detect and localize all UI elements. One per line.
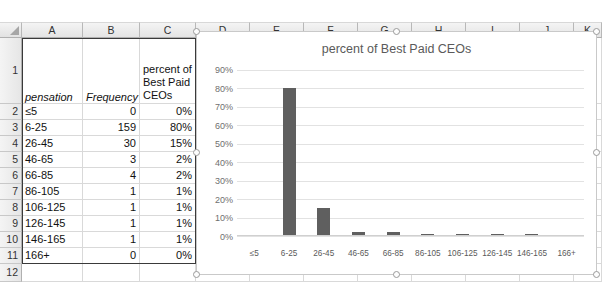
cell-a1-compensation-header[interactable]: pensation: [22, 38, 83, 104]
y-tick-label-10: 10%: [215, 213, 233, 223]
handle-bottom-right[interactable]: [593, 271, 600, 278]
row-header-8[interactable]: 8: [0, 200, 22, 216]
cell-c10-percent[interactable]: 1%: [140, 232, 196, 248]
handle-bottom-center[interactable]: [393, 271, 400, 278]
cell-b6-frequency[interactable]: 4: [83, 168, 140, 184]
cell-b9-frequency[interactable]: 1: [83, 216, 140, 232]
cell-c3-percent[interactable]: 80%: [140, 120, 196, 136]
cell-b4-frequency[interactable]: 30: [83, 136, 140, 152]
chart-bars[interactable]: [237, 70, 584, 236]
x-tick-label-1: 6-25: [272, 249, 307, 258]
x-tick-label-0: ≤5: [237, 249, 272, 258]
cell-a4-compensation-bin[interactable]: 26-45: [22, 136, 83, 152]
column-header-b[interactable]: B: [83, 22, 140, 38]
cell-b2-frequency[interactable]: 0: [83, 104, 140, 120]
cell-b5-frequency[interactable]: 3: [83, 152, 140, 168]
bar-column-9[interactable]: [549, 70, 584, 236]
x-tick-label-3: 46-65: [341, 249, 376, 258]
chart-x-tick-labels: ≤56-2526-4546-6566-8586-105106-125126-14…: [237, 249, 584, 258]
bar-column-6[interactable]: [445, 70, 480, 236]
cell-c1-percent-header[interactable]: percent of Best Paid CEOs: [140, 38, 196, 104]
row-header-10[interactable]: 10: [0, 232, 22, 248]
bar-column-8[interactable]: [515, 70, 550, 236]
cell-a2-compensation-bin[interactable]: ≤5: [22, 104, 83, 120]
bar-column-7[interactable]: [480, 70, 515, 236]
cell-a6-compensation-bin[interactable]: 66-85: [22, 168, 83, 184]
cell-empty[interactable]: [140, 264, 196, 282]
cell-a5-compensation-bin[interactable]: 46-65: [22, 152, 83, 168]
x-tick-label-5: 86-105: [411, 249, 446, 258]
handle-middle-left[interactable]: [193, 149, 200, 156]
x-tick-label-9: 166+: [549, 249, 584, 258]
row-header-6[interactable]: 6: [0, 168, 22, 184]
cell-c9-percent[interactable]: 1%: [140, 216, 196, 232]
y-tick-label-50: 50%: [215, 139, 233, 149]
cell-a11-compensation-bin[interactable]: 166+: [22, 248, 83, 264]
bar-column-5[interactable]: [411, 70, 446, 236]
y-tick-label-70: 70%: [215, 102, 233, 112]
y-tick-label-30: 30%: [215, 176, 233, 186]
cell-c6-percent[interactable]: 2%: [140, 168, 196, 184]
cell-empty[interactable]: [83, 264, 140, 282]
cell-a9-compensation-bin[interactable]: 126-145: [22, 216, 83, 232]
cell-a8-compensation-bin[interactable]: 106-125: [22, 200, 83, 216]
row-header-3[interactable]: 3: [0, 120, 22, 136]
bar-column-3[interactable]: [341, 70, 376, 236]
chart-plot-area: 0%10%20%30%40%50%60%70%80%90%: [237, 70, 584, 236]
cell-b10-frequency[interactable]: 1: [83, 232, 140, 248]
row-header-1[interactable]: 1: [0, 38, 22, 104]
column-header-c[interactable]: C: [140, 22, 196, 38]
cell-c5-percent[interactable]: 2%: [140, 152, 196, 168]
cell-b3-frequency[interactable]: 159: [83, 120, 140, 136]
row-header-5[interactable]: 5: [0, 152, 22, 168]
row-header-4[interactable]: 4: [0, 136, 22, 152]
handle-top-right[interactable]: [593, 28, 600, 35]
y-tick-label-0: 0%: [220, 232, 233, 242]
row-header-12[interactable]: 12: [0, 264, 22, 282]
y-tick-label-90: 90%: [215, 65, 233, 75]
y-tick-label-20: 20%: [215, 195, 233, 205]
handle-bottom-left[interactable]: [193, 271, 200, 278]
handle-top-left[interactable]: [193, 28, 200, 35]
bar-26-45[interactable]: [317, 208, 330, 236]
gridline-0: 0%: [237, 236, 584, 237]
handle-top-center[interactable]: [393, 28, 400, 35]
bar-column-4[interactable]: [376, 70, 411, 236]
chart-title: percent of Best Paid CEOs: [197, 42, 596, 56]
x-tick-label-6: 106-125: [445, 249, 480, 258]
column-header-a[interactable]: A: [22, 22, 83, 38]
y-tick-label-80: 80%: [215, 84, 233, 94]
cell-a3-compensation-bin[interactable]: 6-25: [22, 120, 83, 136]
handle-middle-right[interactable]: [593, 149, 600, 156]
bar-column-1[interactable]: [272, 70, 307, 236]
excel-worksheet-screen: ABCDEFGHIJK 123456789101112 pensationFre…: [0, 0, 602, 301]
bar-column-2[interactable]: [306, 70, 341, 236]
cell-b11-frequency[interactable]: 0: [83, 248, 140, 264]
row-header-2[interactable]: 2: [0, 104, 22, 120]
x-tick-label-7: 126-145: [480, 249, 515, 258]
bar-column-0[interactable]: [237, 70, 272, 236]
chart-x-axis-line: [237, 235, 584, 236]
bar-6-25[interactable]: [283, 88, 296, 236]
cell-empty[interactable]: [22, 264, 83, 282]
y-tick-label-60: 60%: [215, 121, 233, 131]
cell-a10-compensation-bin[interactable]: 146-165: [22, 232, 83, 248]
x-tick-label-8: 146-165: [515, 249, 550, 258]
row-header-9[interactable]: 9: [0, 216, 22, 232]
cell-c7-percent[interactable]: 1%: [140, 184, 196, 200]
cell-b8-frequency[interactable]: 1: [83, 200, 140, 216]
y-tick-label-40: 40%: [215, 158, 233, 168]
cell-c8-percent[interactable]: 1%: [140, 200, 196, 216]
row-header-7[interactable]: 7: [0, 184, 22, 200]
embedded-chart-object[interactable]: percent of Best Paid CEOs 0%10%20%30%40%…: [196, 31, 597, 275]
cell-c11-percent[interactable]: 0%: [140, 248, 196, 264]
x-tick-label-2: 26-45: [306, 249, 341, 258]
cell-c4-percent[interactable]: 15%: [140, 136, 196, 152]
cell-b1-frequency-header[interactable]: Frequency: [83, 38, 140, 104]
row-header-11[interactable]: 11: [0, 248, 22, 264]
cell-a7-compensation-bin[interactable]: 86-105: [22, 184, 83, 200]
cell-b7-frequency[interactable]: 1: [83, 184, 140, 200]
x-tick-label-4: 66-85: [376, 249, 411, 258]
cell-c2-percent[interactable]: 0%: [140, 104, 196, 120]
